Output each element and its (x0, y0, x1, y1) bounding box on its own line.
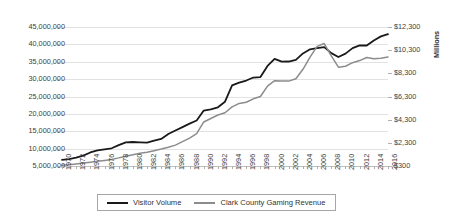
x-axis-tick-label: 2012 (363, 154, 370, 170)
right-axis-tick-mark (388, 97, 392, 98)
left-axis-tick-mark (58, 44, 62, 45)
x-axis-tick-mark (175, 166, 176, 169)
right-axis-tick-mark (388, 143, 392, 144)
left-axis-tick-mark (58, 131, 62, 132)
x-axis-tick-mark (246, 166, 247, 169)
x-axis-tick-mark (105, 166, 106, 169)
x-axis-tick-label: 1988 (193, 154, 200, 170)
right-axis-tick-label: $6,300 (394, 93, 416, 100)
x-axis-tick-mark (317, 166, 318, 169)
legend-item-visitor-volume: Visitor Volume (107, 199, 181, 207)
x-axis-tick-label: 2016 (391, 154, 398, 170)
right-axis-tick-mark (388, 120, 392, 121)
x-axis-tick-mark (232, 166, 233, 169)
right-axis-title: Millions (432, 31, 441, 58)
right-axis-tick-label: $10,300 (394, 46, 420, 53)
x-axis-tick-label: 1970 (65, 154, 72, 170)
x-axis-tick-mark (90, 166, 91, 169)
left-axis-tick-mark (58, 62, 62, 63)
x-axis-tick-label: 1978 (122, 154, 129, 170)
right-axis-tick-mark (388, 73, 392, 74)
x-axis-tick-label: 1996 (249, 154, 256, 170)
legend-swatch-icon (107, 202, 128, 204)
x-axis-tick-label: 1982 (150, 154, 157, 170)
left-axis-tick-mark (58, 79, 62, 80)
series-line (62, 34, 388, 160)
right-axis-tick-label: $4,300 (394, 116, 416, 123)
x-axis-tick-mark (147, 166, 148, 169)
x-axis-tick-mark (76, 166, 77, 169)
right-axis-tick-label: $8,300 (394, 69, 416, 76)
x-axis-tick-mark (345, 166, 346, 169)
right-axis-tick-mark (388, 50, 392, 51)
x-axis-tick-mark (360, 166, 361, 169)
left-axis-tick-mark (58, 97, 62, 98)
legend-label: Clark County Gaming Revenue (220, 199, 325, 207)
x-axis-tick-label: 2002 (292, 154, 299, 170)
x-axis-tick-label: 1998 (263, 154, 270, 170)
left-axis-tick-mark (58, 114, 62, 115)
left-axis-tick-mark (58, 27, 62, 28)
x-axis-tick-label: 1994 (235, 154, 242, 170)
x-axis-tick-label: 2008 (334, 154, 341, 170)
legend-item-clark-county-gaming-revenue: Clark County Gaming Revenue (194, 199, 325, 207)
x-axis-tick-label: 2000 (278, 154, 285, 170)
right-axis-tick-label: $12,300 (394, 23, 420, 30)
x-axis-tick-mark (275, 166, 276, 169)
x-axis-tick-mark (204, 166, 205, 169)
left-axis-tick-mark (58, 149, 62, 150)
chart-legend: Visitor Volume Clark County Gaming Reven… (97, 194, 336, 211)
x-axis-tick-label: 1986 (178, 154, 185, 170)
right-axis-tick-label: $2,300 (394, 139, 416, 146)
x-axis-tick-label: 1984 (164, 154, 171, 170)
x-axis-tick-label: 1992 (221, 154, 228, 170)
series-lines (62, 27, 388, 166)
legend-label: Visitor Volume (133, 199, 181, 207)
x-axis-tick-label: 2014 (377, 154, 384, 170)
x-axis-tick-mark (289, 166, 290, 169)
x-axis-tick-mark (260, 166, 261, 169)
x-axis-tick-mark (133, 166, 134, 169)
right-axis-tick-mark (388, 27, 392, 28)
x-axis-tick-mark (303, 166, 304, 169)
x-axis-tick-mark (374, 166, 375, 169)
x-axis-tick-mark (190, 166, 191, 169)
line-chart: 5,000,00010,000,00015,000,00020,000,0002… (0, 0, 461, 220)
x-axis-tick-mark (119, 166, 120, 169)
x-axis-tick-mark (388, 166, 389, 169)
x-axis-tick-mark (331, 166, 332, 169)
x-axis-tick-label: 2006 (320, 154, 327, 170)
x-axis-tick-label: 1972 (79, 154, 86, 170)
x-axis-tick-label: 1980 (136, 154, 143, 170)
x-axis-tick-label: 2004 (306, 154, 313, 170)
x-axis-tick-label: 1974 (93, 154, 100, 170)
x-axis-tick-mark (218, 166, 219, 169)
x-axis-tick-mark (62, 166, 63, 169)
x-axis-tick-label: 1976 (108, 154, 115, 170)
x-axis-tick-label: 1990 (207, 154, 214, 170)
series-line (62, 44, 388, 166)
x-axis-tick-label: 2010 (348, 154, 355, 170)
plot-area (62, 27, 388, 166)
x-axis-tick-mark (161, 166, 162, 169)
legend-swatch-icon (194, 202, 215, 204)
